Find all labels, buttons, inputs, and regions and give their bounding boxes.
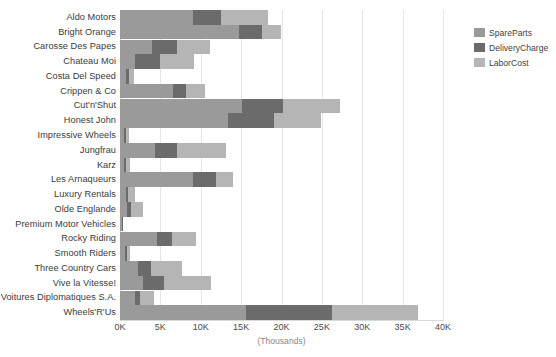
bar-segment[interactable] [228, 113, 274, 128]
bar-segment[interactable] [151, 261, 182, 276]
bar-row[interactable] [120, 217, 123, 232]
y-axis-label: Jungfrau [0, 145, 116, 156]
bar-segment[interactable] [120, 305, 246, 320]
legend-item[interactable]: LaborCost [474, 56, 554, 69]
bar-row[interactable] [120, 158, 130, 173]
bar-segment[interactable] [193, 10, 220, 25]
bar-segment[interactable] [239, 25, 262, 40]
bar-row[interactable] [120, 291, 154, 306]
gridline [443, 10, 444, 320]
bar-segment[interactable] [120, 291, 135, 306]
bar-segment[interactable] [140, 291, 154, 306]
bar-segment[interactable] [246, 305, 332, 320]
bar-row[interactable] [120, 261, 182, 276]
y-axis-category-labels: Aldo MotorsBright OrangeCarosse Des Pape… [0, 10, 116, 320]
bar-segment[interactable] [173, 84, 186, 99]
y-axis-label: Karz [0, 160, 116, 171]
y-axis-label: Voitures Diplomatiques S.A. [0, 292, 116, 303]
bar-segment[interactable] [120, 84, 173, 99]
bar-segment[interactable] [262, 25, 281, 40]
bar-segment[interactable] [332, 305, 418, 320]
y-axis-label: Cut'n'Shut [0, 100, 116, 111]
bar-segment[interactable] [172, 232, 196, 247]
legend-swatch-icon [474, 28, 485, 37]
bar-segment[interactable] [186, 84, 205, 99]
x-axis-baseline [120, 320, 444, 321]
gridline [403, 10, 404, 320]
bar-row[interactable] [120, 276, 211, 291]
y-axis-label: Rocky Riding [0, 233, 116, 244]
legend-label: SpareParts [489, 28, 532, 38]
stacked-bar-chart: Aldo MotorsBright OrangeCarosse Des Pape… [0, 0, 556, 357]
y-axis-label: Les Arnaqueurs [0, 174, 116, 185]
bar-segment[interactable] [120, 113, 228, 128]
x-tick-label: 10K [193, 322, 209, 332]
bar-segment[interactable] [120, 10, 193, 25]
bar-segment[interactable] [216, 172, 233, 187]
bar-segment[interactable] [120, 143, 155, 158]
bar-segment[interactable] [126, 158, 129, 173]
bar-segment[interactable] [274, 113, 321, 128]
bar-row[interactable] [120, 172, 233, 187]
bar-row[interactable] [120, 246, 130, 261]
bar-segment[interactable] [120, 25, 239, 40]
bar-row[interactable] [120, 113, 321, 128]
bar-segment[interactable] [120, 261, 138, 276]
bar-segment[interactable] [177, 40, 209, 55]
bar-row[interactable] [120, 202, 143, 217]
bar-row[interactable] [120, 84, 205, 99]
y-axis-label: Smooth Riders [0, 248, 116, 259]
bar-segment[interactable] [143, 276, 165, 291]
bar-segment[interactable] [155, 143, 177, 158]
bar-segment[interactable] [283, 99, 340, 114]
x-tick-label: 35K [395, 322, 411, 332]
gridline [201, 10, 202, 320]
bar-row[interactable] [120, 40, 210, 55]
bar-row[interactable] [120, 99, 340, 114]
bar-row[interactable] [120, 10, 268, 25]
y-axis-label: Crippen & Co [0, 86, 116, 97]
bar-row[interactable] [120, 54, 194, 69]
bar-segment[interactable] [126, 128, 128, 143]
bar-segment[interactable] [128, 187, 134, 202]
legend: SparePartsDeliveryChargeLaborCost [474, 26, 554, 71]
bar-row[interactable] [120, 187, 135, 202]
bar-segment[interactable] [120, 172, 193, 187]
bar-row[interactable] [120, 25, 281, 40]
y-axis-label: Luxury Rentals [0, 189, 116, 200]
bar-segment[interactable] [129, 69, 134, 84]
bar-segment[interactable] [127, 246, 130, 261]
bar-segment[interactable] [120, 99, 242, 114]
y-axis-label: Carosse Des Papes [0, 41, 116, 52]
bar-segment[interactable] [177, 143, 226, 158]
bar-segment[interactable] [157, 232, 172, 247]
bar-row[interactable] [120, 232, 196, 247]
bar-segment[interactable] [120, 202, 127, 217]
bar-row[interactable] [120, 305, 418, 320]
bar-segment[interactable] [131, 202, 142, 217]
bar-segment[interactable] [122, 217, 123, 232]
bar-row[interactable] [120, 69, 134, 84]
y-axis-label: Vive la Vitesse! [0, 278, 116, 289]
bar-segment[interactable] [120, 276, 143, 291]
bar-segment[interactable] [120, 232, 157, 247]
bar-segment[interactable] [138, 261, 152, 276]
bar-segment[interactable] [193, 172, 216, 187]
bar-segment[interactable] [160, 54, 195, 69]
legend-item[interactable]: SpareParts [474, 26, 554, 39]
legend-item[interactable]: DeliveryCharge [474, 41, 554, 54]
bar-row[interactable] [120, 143, 226, 158]
bar-segment[interactable] [242, 99, 283, 114]
gridline [322, 10, 323, 320]
bar-segment[interactable] [120, 40, 152, 55]
y-axis-label: Chateau Moi [0, 56, 116, 67]
bar-segment[interactable] [135, 54, 160, 69]
bar-segment[interactable] [152, 40, 177, 55]
bar-row[interactable] [120, 128, 129, 143]
plot-area [120, 10, 443, 320]
y-axis-label: Impressive Wheels [0, 130, 116, 141]
bar-segment[interactable] [221, 10, 268, 25]
bar-segment[interactable] [164, 276, 211, 291]
y-axis-label: Premium Motor Vehicles [0, 219, 116, 230]
bar-segment[interactable] [120, 54, 135, 69]
